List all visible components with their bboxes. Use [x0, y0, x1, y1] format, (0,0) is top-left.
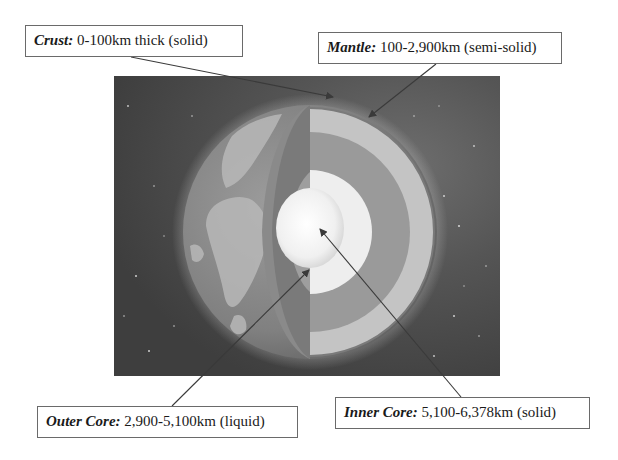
outer-core-description: 2,900-5,100km (liquid) [121, 413, 265, 429]
crust-term: Crust: [34, 32, 73, 48]
inner-core-description: 5,100-6,378km (solid) [418, 404, 556, 420]
crust-label: Crust: 0-100km thick (solid) [25, 25, 243, 57]
outer-core-label: Outer Core: 2,900-5,100km (liquid) [37, 406, 298, 438]
mantle-term: Mantle: [327, 39, 376, 55]
inner-core-term: Inner Core: [344, 404, 418, 420]
outer-core-term: Outer Core: [46, 413, 121, 429]
crust-description: 0-100km thick (solid) [73, 32, 208, 48]
inner-core-label: Inner Core: 5,100-6,378km (solid) [335, 397, 590, 429]
mantle-label: Mantle: 100-2,900km (semi-solid) [318, 32, 562, 64]
earth-cross-section-image [114, 76, 500, 376]
mantle-description: 100-2,900km (semi-solid) [376, 39, 536, 55]
